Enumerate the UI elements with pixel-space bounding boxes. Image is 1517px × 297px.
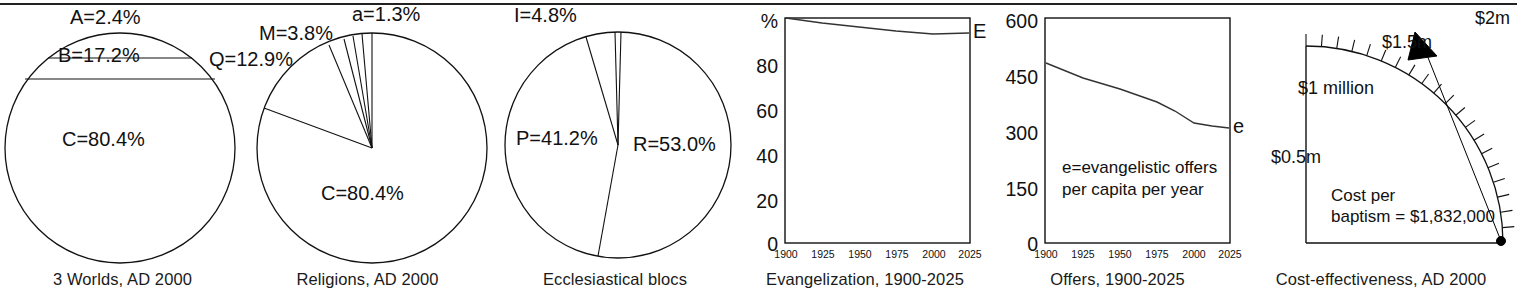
x-tick-1925: 1925	[805, 248, 841, 260]
y-tick-450: 450	[990, 66, 1038, 89]
slice-label-p: P=41.2%	[516, 127, 598, 150]
panel-offers: 600 450 300 150 0 1900 1925 1950 1975 20…	[990, 0, 1245, 297]
gauge-label-1-million: $1 million	[1298, 78, 1374, 99]
y-tick-600: 600	[990, 10, 1038, 33]
series-label-e-upper: E	[973, 20, 986, 43]
y-tick-80: 80	[744, 55, 778, 78]
panel-caption-three-worlds: 3 Worlds, AD 2000	[0, 270, 245, 289]
slice-label-c: C=80.4%	[321, 182, 404, 205]
y-tick-percent: %	[744, 10, 778, 33]
y-tick-60: 60	[744, 100, 778, 123]
y-tick-300: 300	[990, 122, 1038, 145]
gauge-label-0-5m: $0.5m	[1271, 147, 1321, 168]
x-tick-1900: 1900	[768, 248, 804, 260]
x-tick-1975: 1975	[1139, 248, 1175, 260]
figure-strip: A=2.4% B=17.2% C=80.4% 3 Worlds, AD 2000…	[0, 0, 1517, 297]
slice-label-c: C=80.4%	[62, 128, 145, 151]
x-tick-1975: 1975	[879, 248, 915, 260]
x-tick-1950: 1950	[842, 248, 878, 260]
slice-label-r: R=53.0%	[633, 133, 716, 156]
panel-caption-ecclesiastical-blocs: Ecclesiastical blocs	[490, 270, 740, 289]
y-tick-150: 150	[990, 178, 1038, 201]
y-tick-20: 20	[744, 190, 778, 213]
offers-annotation-line1: e=evangelistic offers	[1062, 157, 1217, 179]
slice-label-a: A=2.4%	[70, 6, 141, 29]
panel-cost-effectiveness: $2m $1.5m $1 million $0.5m Cost per bapt…	[1245, 0, 1517, 297]
gauge-annotation-line2: baptism = $1,832,000	[1331, 206, 1495, 228]
gauge-label-1-5m: $1.5m	[1382, 32, 1432, 53]
x-tick-1950: 1950	[1102, 248, 1138, 260]
offers-annotation-line2: per capita per year	[1062, 179, 1204, 201]
panel-religions: M=3.8% a=1.3% Q=12.9% C=80.4% Religions,…	[245, 0, 490, 297]
slice-label-b: B=17.2%	[58, 44, 140, 67]
panel-ecclesiastical-blocs: I=4.8% P=41.2% R=53.0% Ecclesiastical bl…	[490, 0, 740, 297]
x-tick-1900: 1900	[1028, 248, 1064, 260]
x-tick-2000: 2000	[1176, 248, 1212, 260]
x-tick-1925: 1925	[1065, 248, 1101, 260]
panel-caption-cost-effectiveness: Cost-effectiveness, AD 2000	[1245, 270, 1517, 289]
slice-label-m: M=3.8%	[259, 22, 333, 45]
series-label-e-lower: e	[1233, 115, 1244, 138]
x-tick-2000: 2000	[916, 248, 952, 260]
slice-label-a-small: a=1.3%	[352, 3, 420, 26]
panel-caption-offers: Offers, 1900-2025	[990, 270, 1245, 289]
gauge-label-2m: $2m	[1475, 8, 1510, 29]
panel-evangelization: % 80 60 40 20 0 1900 1925 1950 1975 2000…	[740, 0, 990, 297]
panel-caption-religions: Religions, AD 2000	[245, 270, 490, 289]
y-tick-40: 40	[744, 145, 778, 168]
slice-label-i: I=4.8%	[514, 4, 577, 27]
x-tick-2025: 2025	[952, 248, 988, 260]
gauge-annotation-line1: Cost per	[1331, 185, 1395, 207]
panel-caption-evangelization: Evangelization, 1900-2025	[740, 270, 990, 289]
slice-label-q: Q=12.9%	[209, 48, 293, 71]
panel-three-worlds: A=2.4% B=17.2% C=80.4% 3 Worlds, AD 2000	[0, 0, 245, 297]
x-tick-2025: 2025	[1212, 248, 1248, 260]
